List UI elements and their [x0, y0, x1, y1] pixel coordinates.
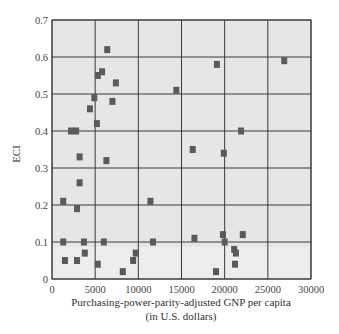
x-tick-label: 20000 — [212, 284, 238, 295]
x-axis-label-units: (in U.S. dollars) — [146, 310, 217, 323]
data-point-marker — [99, 68, 105, 75]
data-point-marker — [147, 198, 153, 205]
data-point-marker — [232, 261, 238, 268]
data-point-marker — [173, 87, 179, 94]
data-point-marker — [281, 57, 287, 64]
data-point-marker — [113, 79, 119, 86]
data-point-marker — [77, 153, 83, 160]
data-point-marker — [133, 250, 139, 257]
data-point-marker — [238, 128, 244, 135]
data-point-marker — [213, 268, 219, 275]
x-tick-label: 15000 — [168, 284, 194, 295]
data-point-marker — [101, 239, 107, 246]
data-point-marker — [103, 157, 109, 164]
data-point-marker — [240, 231, 246, 238]
data-point-marker — [94, 120, 100, 127]
data-point-marker — [74, 257, 80, 264]
x-tick-label: 10000 — [125, 284, 151, 295]
x-tick-label: 25000 — [255, 284, 281, 295]
data-point-marker — [150, 239, 156, 246]
data-point-marker — [68, 128, 74, 135]
data-point-marker — [120, 268, 126, 275]
data-point-marker — [74, 205, 80, 212]
data-point-marker — [191, 235, 197, 242]
data-point-marker — [60, 198, 66, 205]
data-point-marker — [109, 98, 115, 105]
x-tick-label: 30000 — [298, 284, 324, 295]
data-point-marker — [233, 250, 239, 257]
data-point-marker — [82, 250, 88, 257]
data-point-marker — [130, 257, 136, 264]
y-tick-label: 0.3 — [35, 163, 48, 174]
y-tick-label: 0.6 — [35, 52, 48, 63]
data-point-marker — [220, 231, 226, 238]
x-tick-label: 0 — [49, 284, 54, 295]
y-tick-label: 0.4 — [35, 126, 49, 137]
data-point-marker — [60, 239, 66, 246]
x-tick-labels: 050001000015000200002500030000 — [49, 284, 324, 295]
data-point-marker — [81, 239, 87, 246]
y-tick-label: 0.1 — [35, 237, 48, 248]
data-point-marker — [104, 46, 110, 53]
x-tick-label: 5000 — [85, 284, 106, 295]
data-point-marker — [221, 150, 227, 157]
data-point-marker — [62, 257, 68, 264]
y-tick-label: 0.5 — [35, 89, 48, 100]
y-tick-label: 0.7 — [35, 15, 48, 26]
y-tick-labels: 00.10.20.30.40.50.60.7 — [35, 15, 49, 285]
data-point-marker — [190, 146, 196, 153]
data-point-marker — [87, 105, 93, 112]
data-point-marker — [77, 179, 83, 186]
data-point-marker — [73, 128, 79, 135]
y-tick-label: 0 — [43, 274, 48, 285]
data-point-marker — [95, 261, 101, 268]
y-tick-label: 0.2 — [35, 200, 48, 211]
data-point-marker — [222, 239, 228, 246]
data-point-marker — [214, 61, 220, 68]
data-point-marker — [91, 94, 97, 101]
y-axis-label: ECI — [10, 145, 22, 163]
x-axis-label: Purchasing-power-parity-adjusted GNP per… — [71, 296, 291, 308]
scatter-chart: 00.10.20.30.40.50.60.7 05000100001500020… — [0, 0, 339, 334]
